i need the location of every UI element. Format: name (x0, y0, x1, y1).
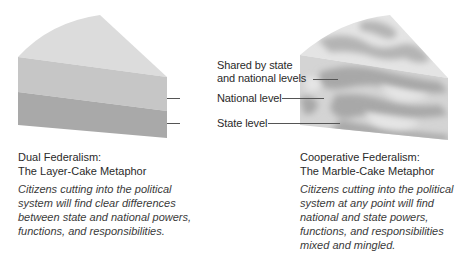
marble-cake-title: Cooperative Federalism: The Marble-Cake … (300, 150, 435, 178)
layer-cake-desc-line: between state and national powers, (18, 210, 191, 224)
label-state-level: State level (217, 117, 267, 130)
layer-cake-desc-line: Citizens cutting into the political (18, 182, 191, 196)
leader-shared (313, 79, 338, 80)
label-shared-levels: Shared by state and national levels (217, 59, 306, 85)
marble-cake-desc-line: Citizens cutting into the political (300, 182, 453, 196)
marble-cake-title-line1: Cooperative Federalism: (300, 150, 435, 164)
leader-state-left (167, 123, 180, 124)
marble-cake-desc-line: functions, and responsibilities (300, 224, 453, 238)
layer-cake-title-line1: Dual Federalism: (18, 150, 146, 164)
layer-cake-desc-line: functions, and responsibilities. (18, 224, 191, 238)
label-shared-line2: and national levels (217, 72, 306, 85)
marble-cake-title-line2: The Marble-Cake Metaphor (300, 164, 435, 178)
label-national-level: National level (217, 92, 282, 105)
layer-cake-desc-line: system will find clear differences (18, 196, 191, 210)
marble-cake (295, 10, 455, 145)
marble-cake-desc-line: mixed and mingled. (300, 238, 453, 252)
leader-national-left (167, 98, 180, 99)
label-shared-line1: Shared by state (217, 59, 306, 72)
marble-cake-desc-line: national and state powers, (300, 210, 453, 224)
marble-cake-desc-line: system at any point will find (300, 196, 453, 210)
layer-cake-description: Citizens cutting into the political syst… (18, 182, 191, 238)
leader-national (282, 98, 324, 99)
leader-state (268, 123, 340, 124)
layer-cake (18, 15, 167, 138)
marble-cake-description: Citizens cutting into the political syst… (300, 182, 453, 252)
layer-cake-title: Dual Federalism: The Layer-Cake Metaphor (18, 150, 146, 178)
layer-cake-title-line2: The Layer-Cake Metaphor (18, 164, 146, 178)
